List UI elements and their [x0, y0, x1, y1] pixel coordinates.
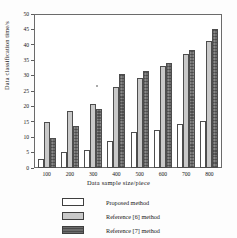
bar-group [61, 14, 79, 168]
legend-swatch [62, 226, 84, 234]
y-tick-mark [31, 121, 34, 122]
bars-area [35, 14, 221, 168]
legend-swatch [62, 198, 84, 206]
y-tick-label: 25 [23, 87, 29, 95]
bar [143, 71, 149, 168]
bar-group [200, 14, 218, 168]
bar-group [177, 14, 195, 168]
bar [73, 126, 79, 168]
bar-group [84, 14, 102, 168]
bar-group [107, 14, 125, 168]
legend-item: Proposed method [62, 196, 212, 208]
x-axis-title: Data sample size/piece [0, 179, 237, 186]
y-tick-mark [31, 60, 34, 61]
y-tick-label: 0 [26, 164, 29, 172]
y-tick-mark [31, 106, 34, 107]
y-tick-label: 45 [23, 25, 29, 33]
chart-legend: Proposed methodReference [6] methodRefer… [62, 196, 212, 238]
y-tick-label: 5 [26, 148, 29, 156]
bar [119, 74, 125, 168]
y-tick-mark [31, 29, 34, 30]
y-tick-label: 30 [23, 71, 29, 79]
bar [212, 29, 218, 168]
legend-label: Reference [7] method [106, 227, 160, 234]
legend-swatch [62, 212, 84, 220]
y-tick-mark [31, 14, 34, 15]
y-tick-label: 10 [23, 133, 29, 141]
legend-item: Reference [7] method [62, 224, 212, 236]
bar-group [38, 14, 56, 168]
y-tick-label: 50 [23, 10, 29, 18]
y-tick-mark [31, 75, 34, 76]
bar [189, 50, 195, 168]
bar [96, 109, 102, 168]
bar-group [131, 14, 149, 168]
scan-artifact-speck [96, 85, 98, 87]
bar-chart-figure: Data classification time/s 0510152025303… [0, 0, 237, 238]
legend-label: Proposed method [106, 199, 149, 206]
legend-label: Reference [6] method [106, 213, 160, 220]
y-tick-mark [31, 44, 34, 45]
y-tick-label: 20 [23, 102, 29, 110]
bar [50, 138, 56, 168]
legend-item: Reference [6] method [62, 210, 212, 222]
y-tick-label: 40 [23, 41, 29, 49]
y-tick-mark [31, 152, 34, 153]
bar [166, 63, 172, 168]
y-tick-mark [31, 91, 34, 92]
y-tick-label: 35 [23, 56, 29, 64]
y-tick-mark [31, 137, 34, 138]
y-tick-label: 15 [23, 118, 29, 126]
bar-group [154, 14, 172, 168]
y-tick-mark [31, 168, 34, 169]
y-axis-title: Data classification time/s [3, 0, 10, 116]
